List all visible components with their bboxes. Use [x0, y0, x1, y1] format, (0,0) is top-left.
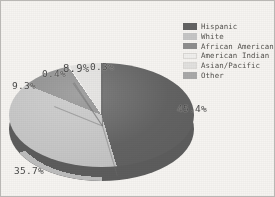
- pie-label-white: 35.7%: [14, 165, 44, 176]
- legend-item-label: American Indian: [201, 51, 269, 60]
- pie-chart-figure: 45.4% 35.7% 9.3% 0.4% 8.9% 0.3% Hispanic…: [0, 0, 275, 197]
- legend-swatch-icon: [183, 33, 197, 40]
- legend-swatch-icon: [183, 53, 197, 60]
- legend-item-label: Asian/Pacific: [201, 61, 260, 70]
- legend-item-label: African American: [201, 42, 274, 51]
- legend-item-other[interactable]: Other: [183, 71, 274, 80]
- legend: Hispanic White African American American…: [183, 22, 274, 81]
- legend-swatch-icon: [183, 43, 197, 50]
- legend-swatch-icon: [183, 62, 197, 69]
- legend-item-white[interactable]: White: [183, 32, 274, 41]
- legend-item-asian-pacific[interactable]: Asian/Pacific: [183, 61, 274, 70]
- pie-label-asian-pacific: 8.9%: [63, 62, 90, 74]
- legend-item-hispanic[interactable]: Hispanic: [183, 22, 274, 31]
- legend-item-label: White: [201, 32, 224, 41]
- legend-swatch-icon: [183, 72, 197, 79]
- legend-item-label: Hispanic: [201, 22, 237, 31]
- pie-label-other: 0.3%: [90, 61, 114, 72]
- pie-label-african-american: 9.3%: [12, 80, 36, 91]
- pie-label-hispanic: 45.4%: [177, 103, 207, 114]
- legend-item-label: Other: [201, 71, 224, 80]
- legend-item-african-american[interactable]: African American: [183, 42, 274, 51]
- legend-swatch-icon: [183, 23, 197, 30]
- legend-item-american-indian[interactable]: American Indian: [183, 51, 274, 60]
